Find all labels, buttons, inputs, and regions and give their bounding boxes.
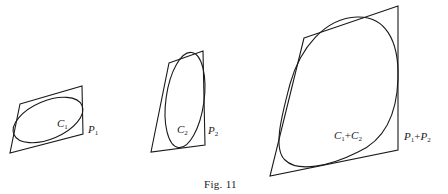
polygon-label-p1: P1	[88, 123, 98, 137]
polygon-label-p1-plus-p2: P1+P2	[404, 130, 431, 144]
polygon-label-p2: P2	[208, 124, 218, 138]
curve-c1	[7, 88, 90, 152]
curve-label-c1: C1	[57, 117, 68, 131]
polygon-p1-plus-p2	[270, 6, 398, 176]
curve-label-c2: C2	[177, 123, 188, 137]
figure-drawing	[0, 0, 448, 194]
figure-11: C1 P1 C2 P2 C1+C2 P1+P2 Fig. 11	[0, 0, 448, 194]
curve-label-c1-plus-c2: C1+C2	[334, 129, 362, 143]
polygon-p1	[10, 86, 83, 153]
curve-c1-plus-c2	[279, 17, 398, 167]
figure-caption: Fig. 11	[204, 178, 237, 190]
